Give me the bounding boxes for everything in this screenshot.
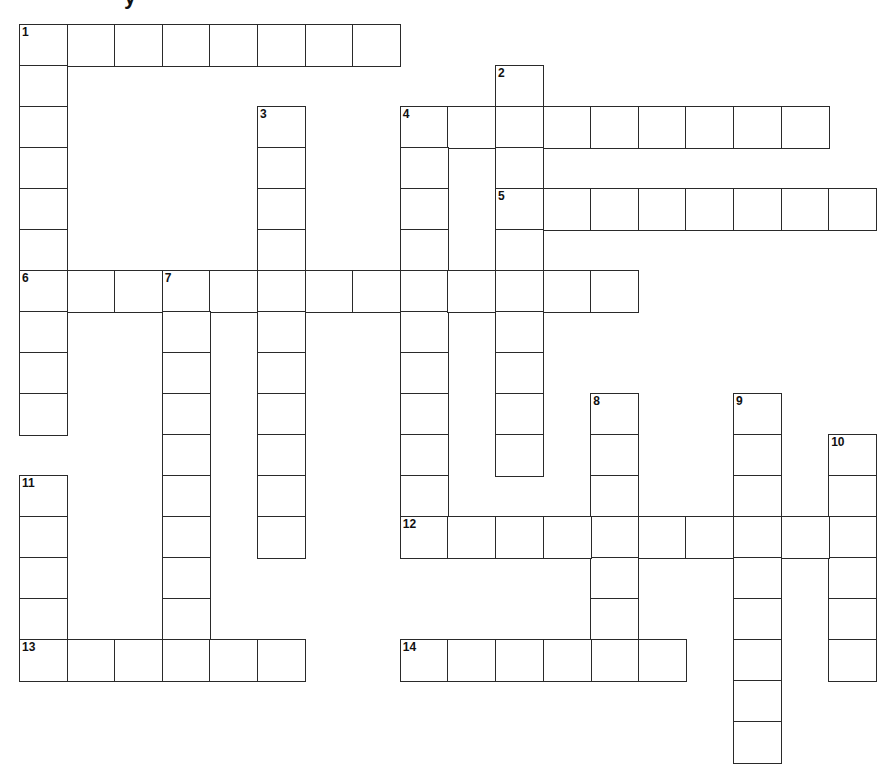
cell-letter-input[interactable]: [591, 599, 638, 640]
grid-cell[interactable]: [495, 106, 544, 149]
grid-cell[interactable]: [67, 270, 116, 313]
grid-cell[interactable]: [162, 516, 211, 559]
cell-letter-input[interactable]: [496, 517, 543, 558]
cell-letter-input[interactable]: [210, 271, 257, 312]
grid-cell[interactable]: [495, 311, 544, 354]
cell-letter-input[interactable]: [401, 107, 448, 148]
grid-cell[interactable]: [352, 24, 401, 67]
grid-cell[interactable]: [495, 516, 544, 559]
cell-letter-input[interactable]: [258, 353, 305, 394]
cell-letter-input[interactable]: [401, 148, 448, 189]
cell-letter-input[interactable]: [544, 107, 591, 148]
cell-letter-input[interactable]: [591, 394, 638, 435]
cell-letter-input[interactable]: [591, 271, 638, 312]
grid-cell[interactable]: [590, 598, 639, 641]
cell-letter-input[interactable]: [258, 230, 305, 271]
grid-cell[interactable]: [352, 270, 401, 313]
cell-letter-input[interactable]: [496, 271, 543, 312]
cell-letter-input[interactable]: [734, 435, 781, 476]
grid-cell[interactable]: [828, 188, 877, 231]
cell-letter-input[interactable]: [639, 107, 686, 148]
grid-cell[interactable]: [162, 475, 211, 518]
cell-letter-input[interactable]: [20, 107, 67, 148]
cell-letter-input[interactable]: [591, 558, 638, 599]
cell-letter-input[interactable]: [448, 640, 495, 681]
cell-letter-input[interactable]: [734, 722, 781, 763]
cell-letter-input[interactable]: [544, 640, 591, 681]
grid-cell[interactable]: [400, 188, 449, 231]
grid-cell[interactable]: [447, 270, 496, 313]
grid-cell[interactable]: 6: [19, 270, 68, 313]
grid-cell[interactable]: 14: [400, 639, 449, 682]
grid-cell[interactable]: [400, 393, 449, 436]
grid-cell[interactable]: [733, 516, 782, 559]
cell-letter-input[interactable]: [163, 640, 210, 681]
grid-cell[interactable]: 7: [162, 270, 211, 313]
cell-letter-input[interactable]: [496, 640, 543, 681]
grid-cell[interactable]: [162, 639, 211, 682]
cell-letter-input[interactable]: [496, 394, 543, 435]
grid-cell[interactable]: 13: [19, 639, 68, 682]
cell-letter-input[interactable]: [496, 148, 543, 189]
grid-cell[interactable]: [209, 270, 258, 313]
grid-cell[interactable]: [257, 188, 306, 231]
cell-letter-input[interactable]: [20, 189, 67, 230]
cell-letter-input[interactable]: [496, 312, 543, 353]
cell-letter-input[interactable]: [496, 189, 543, 230]
cell-letter-input[interactable]: [210, 25, 257, 66]
cell-letter-input[interactable]: [639, 517, 686, 558]
grid-cell[interactable]: 5: [495, 188, 544, 231]
cell-letter-input[interactable]: [734, 189, 781, 230]
cell-letter-input[interactable]: [210, 640, 257, 681]
cell-letter-input[interactable]: [829, 189, 876, 230]
cell-letter-input[interactable]: [829, 599, 876, 640]
grid-cell[interactable]: [781, 188, 830, 231]
grid-cell[interactable]: [828, 639, 877, 682]
cell-letter-input[interactable]: [782, 189, 829, 230]
grid-cell[interactable]: 12: [400, 516, 449, 559]
cell-letter-input[interactable]: [639, 640, 686, 681]
grid-cell[interactable]: [828, 516, 877, 559]
cell-letter-input[interactable]: [163, 435, 210, 476]
cell-letter-input[interactable]: [734, 640, 781, 681]
grid-cell[interactable]: [543, 188, 592, 231]
grid-cell[interactable]: [257, 393, 306, 436]
cell-letter-input[interactable]: [353, 271, 400, 312]
cell-letter-input[interactable]: [163, 271, 210, 312]
cell-letter-input[interactable]: [686, 107, 733, 148]
cell-letter-input[interactable]: [734, 681, 781, 722]
grid-cell[interactable]: [257, 434, 306, 477]
cell-letter-input[interactable]: [829, 517, 876, 558]
cell-letter-input[interactable]: [401, 394, 448, 435]
grid-cell[interactable]: [638, 106, 687, 149]
grid-cell[interactable]: [19, 598, 68, 641]
grid-cell[interactable]: [543, 270, 592, 313]
cell-letter-input[interactable]: [258, 148, 305, 189]
grid-cell[interactable]: [400, 311, 449, 354]
cell-letter-input[interactable]: [591, 435, 638, 476]
cell-letter-input[interactable]: [258, 476, 305, 517]
grid-cell[interactable]: 3: [257, 106, 306, 149]
grid-cell[interactable]: [257, 516, 306, 559]
cell-letter-input[interactable]: [68, 640, 115, 681]
grid-cell[interactable]: [543, 639, 592, 682]
grid-cell[interactable]: [67, 639, 116, 682]
grid-cell[interactable]: 4: [400, 106, 449, 149]
grid-cell[interactable]: [400, 434, 449, 477]
grid-cell[interactable]: [19, 393, 68, 436]
cell-letter-input[interactable]: [163, 25, 210, 66]
cell-letter-input[interactable]: [829, 476, 876, 517]
cell-letter-input[interactable]: [448, 271, 495, 312]
cell-letter-input[interactable]: [68, 25, 115, 66]
cell-letter-input[interactable]: [782, 107, 829, 148]
grid-cell[interactable]: [305, 24, 354, 67]
cell-letter-input[interactable]: [496, 66, 543, 107]
cell-letter-input[interactable]: [115, 640, 162, 681]
grid-cell[interactable]: [543, 106, 592, 149]
grid-cell[interactable]: [114, 270, 163, 313]
grid-cell[interactable]: [19, 557, 68, 600]
cell-letter-input[interactable]: [20, 394, 67, 435]
grid-cell[interactable]: [162, 557, 211, 600]
cell-letter-input[interactable]: [20, 476, 67, 517]
grid-cell[interactable]: [733, 557, 782, 600]
